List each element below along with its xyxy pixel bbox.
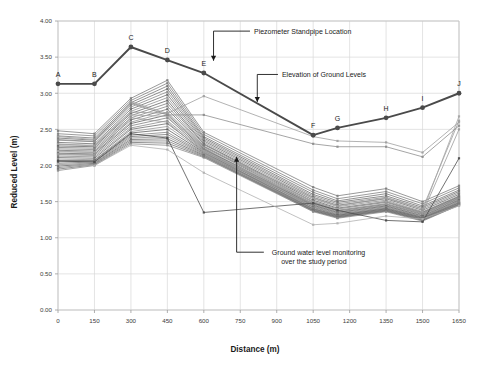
groundwater-marker [130,119,132,121]
groundwater-marker [203,211,205,213]
groundwater-marker [166,131,168,133]
borehole-label: I [422,95,424,102]
groundwater-marker [385,201,387,203]
gw-monitoring-annotation-line2: over the study period [281,258,346,266]
groundwater-marker [166,142,168,144]
y-tick-label: 2.00 [40,162,53,169]
ground-level-marker [129,45,134,50]
groundwater-marker [93,161,95,163]
chart-canvas: 0.000.501.001.502.002.503.003.504.00 015… [0,0,499,378]
groundwater-marker [166,144,168,146]
ground-level-marker [335,126,340,131]
y-tick-label: 1.00 [40,234,53,241]
groundwater-marker [166,96,168,98]
groundwater-marker [130,133,132,135]
groundwater-marker [130,128,132,130]
groundwater-marker [312,202,314,204]
groundwater-marker [458,128,460,130]
groundwater-marker [458,185,460,187]
groundwater-marker [312,197,314,199]
x-tick-label: 1200 [343,317,357,324]
y-axis-title: Reduced Level (m) [10,135,19,208]
groundwater-marker [57,143,59,145]
groundwater-marker [166,133,168,135]
groundwater-marker [130,117,132,119]
y-tick-label: 4.00 [40,17,53,24]
groundwater-marker [130,97,132,99]
groundwater-marker [166,94,168,96]
ground-level-marker [384,115,389,120]
ground-level-marker [92,81,97,86]
borehole-label: F [311,122,315,129]
groundwater-marker [57,130,59,132]
groundwater-marker [166,85,168,87]
groundwater-marker [130,125,132,127]
groundwater-marker [93,145,95,147]
groundwater-marker [130,102,132,104]
ground-elevation-annotation-text: Elevation of Ground Levels [282,71,367,78]
x-tick-label: 750 [235,317,246,324]
groundwater-marker [385,203,387,205]
groundwater-marker [57,169,59,171]
groundwater-marker [166,91,168,93]
x-tick-label: 1050 [306,317,320,324]
groundwater-marker [166,149,168,151]
groundwater-marker [385,211,387,213]
y-tick-label: 1.50 [40,198,53,205]
groundwater-marker [336,205,338,207]
ground-level-marker [311,133,316,138]
x-tick-label: 600 [199,317,210,324]
groundwater-marker [336,209,338,211]
groundwater-marker [336,195,338,197]
groundwater-marker [458,187,460,189]
piezometer-annotation-text: Piezometer Standpipe Location [254,28,351,36]
ground-level-marker [420,105,425,110]
groundwater-marker [312,189,314,191]
groundwater-marker [421,212,423,214]
groundwater-marker [312,186,314,188]
groundwater-marker [166,125,168,127]
groundwater-marker [385,193,387,195]
x-tick-label: 1500 [416,317,430,324]
groundwater-marker [421,151,423,153]
groundwater-marker [385,215,387,217]
groundwater-marker [203,172,205,174]
groundwater-marker [166,105,168,107]
groundwater-marker [336,217,338,219]
groundwater-marker [166,88,168,90]
groundwater-marker [336,198,338,200]
groundwater-marker [166,82,168,84]
y-tick-label: 3.50 [40,53,53,60]
groundwater-marker [93,135,95,137]
groundwater-marker [57,163,59,165]
groundwater-marker [421,221,423,223]
borehole-label: H [384,105,389,112]
borehole-label: C [128,34,133,41]
x-tick-label: 150 [89,317,100,324]
groundwater-marker [385,146,387,148]
groundwater-marker [93,133,95,135]
groundwater-marker [421,201,423,203]
groundwater-marker [130,111,132,113]
groundwater-marker [203,146,205,148]
groundwater-marker [385,141,387,143]
ground-level-marker [56,81,61,86]
groundwater-marker [130,122,132,124]
groundwater-marker [166,137,168,139]
groundwater-marker [203,151,205,153]
groundwater-marker [130,108,132,110]
ground-level-marker [201,71,206,76]
groundwater-marker [57,138,59,140]
x-tick-label: 0 [56,317,60,324]
groundwater-marker [93,151,95,153]
groundwater-marker [166,128,168,130]
groundwater-marker [421,156,423,158]
groundwater-marker [336,222,338,224]
groundwater-marker [458,157,460,159]
groundwater-marker [336,146,338,148]
groundwater-marker [385,190,387,192]
groundwater-marker [130,114,132,116]
x-tick-label: 300 [126,317,137,324]
groundwater-marker [93,164,95,166]
groundwater-marker [166,114,168,116]
